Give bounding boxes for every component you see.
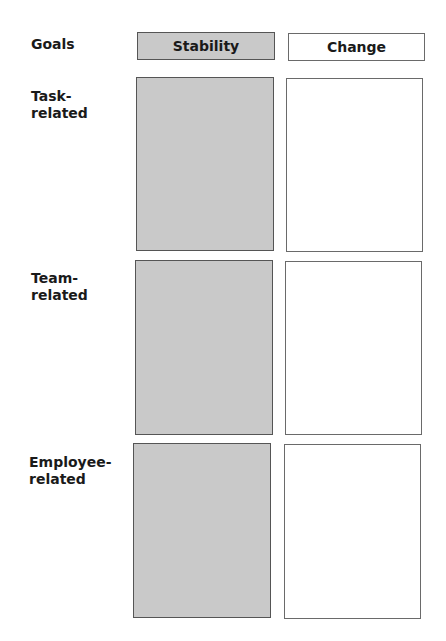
goals-label: Goals [31,36,75,53]
row-label-line1: Employee- [29,454,112,471]
row-label-line1: Task- [31,88,88,105]
stability-label: Stability [173,38,239,54]
task-change-cell [286,78,423,252]
row-label-line2: related [31,105,88,122]
row-label-line2: related [31,287,88,304]
change-column-header: Change [288,33,425,61]
task-stability-cell [136,77,274,251]
team-stability-cell [135,260,273,435]
row-label-task-related: Task- related [31,88,88,122]
employee-stability-cell [133,443,271,618]
employee-change-cell [284,444,421,619]
stability-column-header: Stability [137,32,275,60]
row-label-line2: related [29,471,112,488]
row-label-team-related: Team- related [31,270,88,304]
row-label-line1: Team- [31,270,88,287]
change-label: Change [327,39,386,55]
row-label-employee-related: Employee- related [29,454,112,488]
team-change-cell [285,261,422,435]
